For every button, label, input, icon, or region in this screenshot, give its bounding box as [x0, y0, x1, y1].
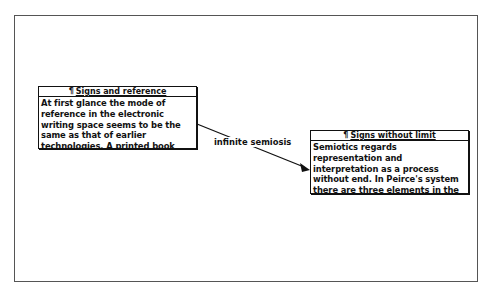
note-signs-and-reference[interactable]: ¶Signs and reference At first glance the…: [38, 86, 197, 149]
note-body[interactable]: At first glance the mode of reference in…: [39, 97, 196, 149]
link-label[interactable]: infinite semiosis: [214, 137, 291, 147]
arrowhead-icon: [300, 163, 310, 172]
note-title-bar[interactable]: ¶Signs and reference: [39, 87, 196, 97]
pilcrow-icon: ¶: [343, 131, 348, 140]
note-title: Signs without limit: [350, 131, 435, 140]
note-body[interactable]: Semiotics regards representation and int…: [311, 141, 468, 194]
note-title: Signs and reference: [76, 87, 167, 96]
pilcrow-icon: ¶: [69, 87, 74, 96]
note-signs-without-limit[interactable]: ¶Signs without limit Semiotics regards r…: [310, 130, 469, 194]
note-title-bar[interactable]: ¶Signs without limit: [311, 131, 468, 141]
